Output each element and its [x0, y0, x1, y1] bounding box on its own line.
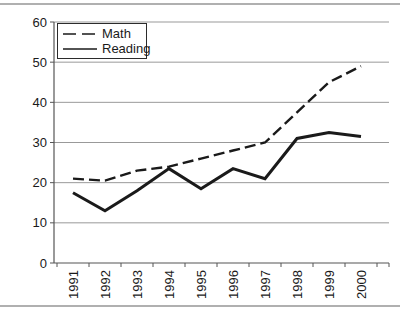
- chart-legend: Math Reading: [57, 23, 147, 59]
- reading-solid-line-sample: [62, 44, 98, 54]
- x-axis-tick-label: 1992: [98, 270, 113, 299]
- legend-label-math: Math: [102, 27, 131, 41]
- x-axis-tick-label: 2000: [354, 270, 369, 299]
- y-axis-tick-label: 10: [33, 215, 47, 230]
- y-axis-tick-label: 60: [33, 15, 47, 30]
- y-axis-tick-label: 30: [33, 135, 47, 150]
- reading-series-line: [73, 132, 361, 210]
- x-axis-tick-label: 1993: [130, 270, 145, 299]
- math-series-line: [73, 66, 361, 180]
- legend-item-math: Math: [62, 26, 142, 41]
- x-axis-tick-label: 1994: [162, 270, 177, 299]
- y-axis-tick-label: 20: [33, 175, 47, 190]
- chart-figure: 0102030405060199119921993199419951996199…: [0, 0, 400, 317]
- math-dashed-line-sample: [62, 29, 98, 39]
- x-axis-tick-label: 1997: [258, 270, 273, 299]
- x-axis-tick-label: 1995: [194, 270, 209, 299]
- y-axis-tick-label: 40: [33, 95, 47, 110]
- legend-item-reading: Reading: [62, 41, 142, 56]
- x-axis-tick-label: 1991: [66, 270, 81, 299]
- x-axis-tick-label: 1996: [226, 270, 241, 299]
- legend-label-reading: Reading: [102, 42, 150, 56]
- y-axis-tick-label: 50: [33, 55, 47, 70]
- x-axis-tick-label: 1998: [290, 270, 305, 299]
- x-axis-tick-label: 1999: [322, 270, 337, 299]
- bottom-rule: [0, 305, 400, 307]
- y-axis-tick-label: 0: [40, 256, 47, 271]
